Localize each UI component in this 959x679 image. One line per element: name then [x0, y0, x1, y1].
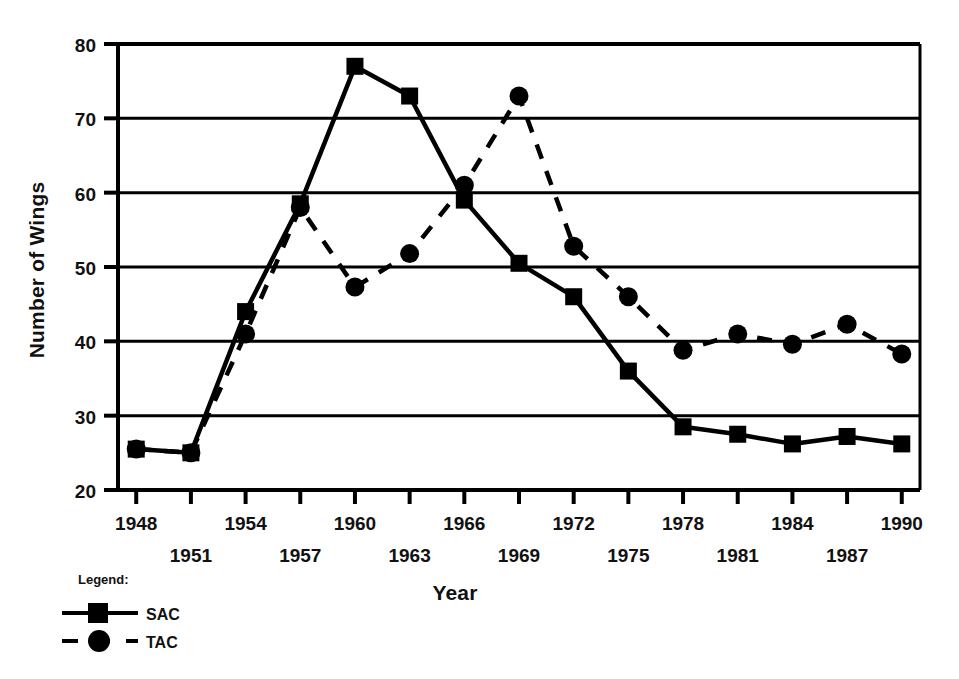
legend-title: Legend: [78, 572, 129, 587]
data-point-marker [346, 58, 363, 75]
data-point-marker [291, 198, 310, 217]
square-marker-icon [88, 603, 108, 623]
x-tick-label: 1960 [334, 513, 376, 534]
x-tick-label: 1957 [279, 545, 321, 566]
data-point-marker [675, 418, 692, 435]
data-point-marker [839, 428, 856, 445]
data-point-marker [181, 443, 200, 462]
data-point-marker [511, 255, 528, 272]
chart-background [0, 0, 959, 679]
y-tick-label: 70 [75, 109, 96, 130]
x-tick-label: 1978 [662, 513, 704, 534]
data-point-marker [620, 363, 637, 380]
data-point-marker [401, 88, 418, 105]
x-tick-label: 1954 [224, 513, 267, 534]
data-point-marker [893, 435, 910, 452]
data-point-marker [619, 287, 638, 306]
data-point-marker [400, 244, 419, 263]
legend-label-sac: SAC [146, 606, 180, 623]
y-axis-title: Number of Wings [25, 182, 48, 359]
x-tick-label: 1966 [443, 513, 485, 534]
x-tick-label: 1969 [498, 545, 540, 566]
x-tick-label: 1990 [881, 513, 923, 534]
data-point-marker [728, 324, 747, 343]
x-tick-label: 1981 [717, 545, 760, 566]
data-point-marker [236, 324, 255, 343]
x-tick-label: 1948 [115, 513, 157, 534]
y-tick-label: 30 [75, 407, 96, 428]
x-tick-label: 1975 [607, 545, 650, 566]
chart-figure: 20304050607080 1948195119541957196019631… [0, 0, 959, 679]
x-axis-title: Year [432, 581, 477, 604]
line-chart: 20304050607080 1948195119541957196019631… [0, 0, 959, 679]
data-point-marker [510, 87, 529, 106]
x-tick-label: 1972 [553, 513, 595, 534]
data-point-marker [674, 341, 693, 360]
legend-label-tac: TAC [146, 634, 178, 651]
x-tick-label: 1963 [388, 545, 430, 566]
y-tick-label: 20 [75, 481, 96, 502]
data-point-marker [838, 315, 857, 334]
y-tick-label: 50 [75, 258, 96, 279]
y-tick-label: 80 [75, 35, 96, 56]
x-tick-label: 1951 [170, 545, 213, 566]
data-point-marker [784, 435, 801, 452]
data-point-marker [783, 335, 802, 354]
x-tick-label: 1984 [771, 513, 814, 534]
data-point-marker [892, 344, 911, 363]
data-point-marker [345, 278, 364, 297]
data-point-marker [729, 426, 746, 443]
circle-marker-icon [88, 630, 110, 652]
data-point-marker [564, 237, 583, 256]
y-tick-label: 40 [75, 332, 96, 353]
data-point-marker [455, 176, 474, 195]
data-point-marker [127, 440, 146, 459]
y-tick-label: 60 [75, 184, 96, 205]
data-point-marker [565, 288, 582, 305]
x-tick-label: 1987 [826, 545, 868, 566]
